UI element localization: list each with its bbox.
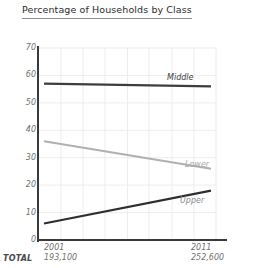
y-tick-0: 0 [2, 236, 36, 244]
x-tick-2011-year: 2011 [191, 243, 224, 253]
series-label-lower: Lower [185, 160, 209, 169]
x-tick-2011: 2011 252,600 [191, 243, 224, 263]
series-label-upper: Upper [180, 196, 204, 205]
x-tick-2011-total: 252,600 [191, 253, 224, 263]
y-tick-30: 30 [2, 154, 36, 162]
chart-container: Percentage of Households by Class 70 60 … [0, 0, 254, 268]
y-tick-10: 10 [2, 209, 36, 217]
series-label-middle: Middle [167, 73, 193, 82]
line-series-middle [44, 84, 211, 87]
x-axis-line [37, 239, 227, 241]
y-tick-70: 70 [2, 44, 36, 52]
chart-title: Percentage of Households by Class [22, 4, 192, 19]
y-axis-line [37, 46, 39, 242]
y-axis-tick-labels: 70 60 50 40 30 20 10 0 [0, 0, 36, 268]
x-tick-2001: 2001 193,100 [44, 243, 77, 263]
x-tick-2001-total: 193,100 [44, 253, 77, 263]
total-row-label: TOTAL [3, 254, 32, 263]
y-tick-20: 20 [2, 181, 36, 189]
x-tick-2001-year: 2001 [44, 243, 77, 253]
y-tick-50: 50 [2, 99, 36, 107]
y-tick-60: 60 [2, 71, 36, 79]
y-tick-40: 40 [2, 126, 36, 134]
